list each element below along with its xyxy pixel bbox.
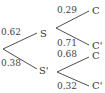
node-s-c: C <box>92 5 100 16</box>
prob-s-c: 0.29 <box>57 5 77 15</box>
prob-sprime: 0.38 <box>1 58 21 68</box>
tree-lines <box>0 0 105 93</box>
node-sprime-cprime: C' <box>92 80 102 91</box>
node-sprime-c: C <box>92 50 100 61</box>
node-sprime: S' <box>39 65 49 76</box>
node-s: S <box>40 28 47 39</box>
prob-sprime-c: 0.68 <box>57 49 77 59</box>
branch-sprime-c <box>57 57 89 72</box>
prob-sprime-cprime: 0.32 <box>57 81 77 91</box>
prob-s-cprime: 0.71 <box>57 38 77 48</box>
prob-s: 0.62 <box>1 27 21 37</box>
